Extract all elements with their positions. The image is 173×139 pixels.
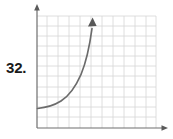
exponential-curve <box>38 18 97 109</box>
curve-arrow-icon <box>88 18 97 27</box>
x-axis-arrow-icon <box>162 125 169 131</box>
figure-container: 32. <box>0 0 173 139</box>
grid-horizontal-lines <box>37 16 156 117</box>
y-axis-arrow-icon <box>34 4 40 11</box>
x-axis <box>37 125 168 131</box>
grid-vertical-lines <box>47 16 156 128</box>
graph-plot <box>0 0 173 139</box>
